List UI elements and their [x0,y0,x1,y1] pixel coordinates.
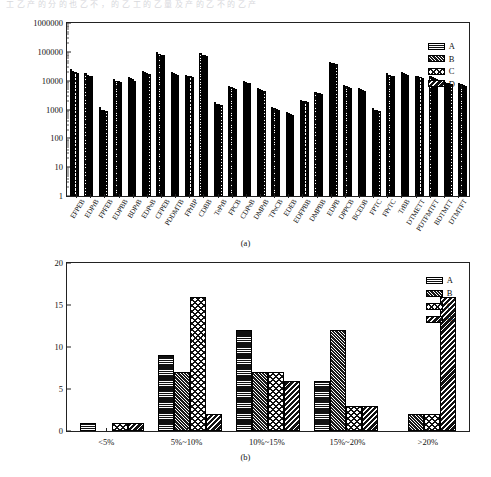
panel-b-x-tick-label: >20% [418,437,438,447]
panel-a-caption: (a) [0,238,491,248]
panel-a-bar-d [378,111,380,196]
panel-a-x-tick-mark [133,194,134,198]
panel-a-bar-group [185,23,194,196]
panel-a-x-tick-mark [302,194,303,198]
panel-a-y-tick-label: 10 [55,162,68,172]
legend-swatch-d-icon [428,80,445,87]
legend-entry-d: D [426,314,453,324]
panel-a-bar-d [364,91,366,196]
legend-entry-c: C [426,301,453,311]
panel-b-bar-d [362,406,378,431]
panel-a-bar-d [120,82,122,196]
legend-swatch-a-icon [426,277,443,284]
panel-b-bar-d [128,423,144,431]
legend-entry-c: C [428,66,455,76]
panel-b-x-tick-label: 5%~10% [171,437,203,447]
panel-a-bar-d [206,56,208,196]
legend-label-d: D [449,79,455,89]
panel-a-bar-group [343,23,352,196]
panel-b-bar-d [206,414,222,431]
panel-b-legend: A B C D [426,275,453,324]
panel-a-x-tick-mark [76,194,77,198]
legend-swatch-b-icon [426,290,443,297]
panel-a-x-tick-mark [373,194,374,198]
legend-entry-b: B [426,288,453,298]
panel-b-bar-d [284,381,300,431]
legend-label-b: B [449,54,455,64]
panel-a-bar-d [436,79,438,196]
panel-b-y-tick-label: 5 [59,384,67,394]
panel-a-bar-d [163,55,165,196]
panel-a-bars [67,23,469,196]
panel-a-x-tick-mark [119,194,120,198]
panel-a-legend: A B C D [428,41,455,89]
panel-a-bar-d [307,102,309,196]
panel-b-bar-c [112,423,128,431]
panel-b-bar-b [252,372,268,431]
panel-a-x-tick-label: EFPEB [69,198,87,220]
legend-swatch-a-icon [428,43,445,50]
panel-b-x-tick-label: 10%~15% [249,437,285,447]
panel-a-bar-group [286,23,295,196]
panel-a-bar-d [148,74,150,196]
panel-a-x-tick-mark [317,194,318,198]
panel-b-bar-b [330,330,346,431]
panel-b-bar-a [314,381,330,431]
panel-b-bar-b [174,372,190,431]
panel-b-y-tick-label: 20 [55,258,68,268]
legend-label-d: D [447,314,453,324]
panel-a-x-tick-mark [401,194,402,198]
panel-a-bar-d [393,76,395,196]
panel-b-bar-group [236,263,300,431]
legend-entry-b: B [428,54,455,64]
panel-b-x-tick-label: <5% [98,437,114,447]
legend-entry-d: D [428,79,455,89]
legend-entry-a: A [426,275,453,285]
legend-swatch-d-icon [426,316,443,323]
panel-a-bar-group [386,23,395,196]
panel-a-bar-group [214,23,223,196]
panel-a-x-tick-mark [147,194,148,198]
panel-a-x-tick-mark [218,194,219,198]
panel-b-bar-group [158,263,222,431]
panel-b-x-tick-mark [106,428,107,432]
panel-a-bar-group [128,23,137,196]
panel-a: 绝对峰强度 1101001000100001000001000000 A B C [0,12,491,252]
panel-a-bar-d [350,88,352,196]
panel-a-bar-d [91,76,93,196]
panel-a-y-tick-label: 1000 [46,105,67,115]
legend-label-c: C [449,66,455,76]
panel-a-bar-group [99,23,108,196]
panel-a-y-tick-label: 1000000 [33,18,67,28]
panel-a-bar-d [335,64,337,196]
panel-a-bar-group [300,23,309,196]
panel-a-bar-group [329,23,338,196]
panel-b-x-tick-label: 15%~20% [330,437,366,447]
panel-a-x-tick-mark [175,194,176,198]
panel-b-plot-area: 05101520 A B C D [66,262,470,432]
panel-a-bar-group [142,23,151,196]
panel-a-y-tick-label: 100000 [38,47,68,57]
panel-a-x-tick-mark [359,194,360,198]
panel-a-y-tick-label: 10000 [42,76,67,86]
panel-a-bar-group [228,23,237,196]
panel-a-bar-group [243,23,252,196]
panel-a-x-tick-mark [203,194,204,198]
panel-a-x-tick-mark [260,194,261,198]
panel-a-bar-group [372,23,381,196]
panel-a-x-tick-mark [345,194,346,198]
panel-a-y-tick-label: 100 [50,133,67,143]
panel-a-bar-d [450,84,452,196]
panel-a-bar-group [84,23,93,196]
panel-a-x-tick-mark [288,194,289,198]
legend-label-a: A [449,41,455,51]
panel-a-bar-group [156,23,165,196]
panel-b-bar-group [80,263,144,431]
panel-b-bar-a [80,423,96,431]
panel-a-x-tick-mark [416,194,417,198]
panel-a-bar-d [177,75,179,196]
panel-b-bar-c [346,406,362,431]
panel-b-bars [67,263,469,431]
panel-b-bar-c [268,372,284,431]
panel-a-bar-d [321,94,323,196]
